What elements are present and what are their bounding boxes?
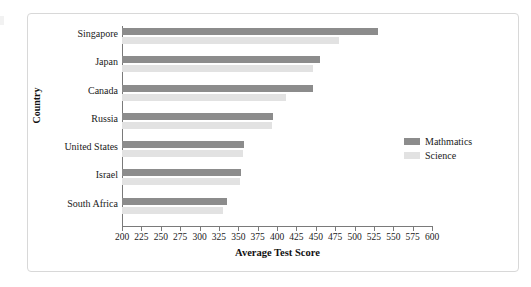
bar-group <box>122 111 432 139</box>
legend-item: Science <box>404 145 504 159</box>
x-axis-tick-label: 600 <box>412 232 452 242</box>
x-axis-tick <box>277 226 278 231</box>
bar-science <box>122 37 339 44</box>
bar-math <box>122 169 241 176</box>
bar-science <box>122 207 223 214</box>
bar-math <box>122 28 378 35</box>
x-axis-tick <box>141 226 142 231</box>
bar-math <box>122 85 313 92</box>
x-axis-tick <box>413 226 414 231</box>
bar-science <box>122 122 272 129</box>
x-axis-tick <box>180 226 181 231</box>
x-axis-tick <box>258 226 259 231</box>
y-axis-category-label: Canada <box>8 85 118 96</box>
bar-group <box>122 167 432 195</box>
x-axis-tick <box>432 226 433 231</box>
bar-science <box>122 65 313 72</box>
x-axis-title: Average Test Score <box>122 247 433 258</box>
plot-area <box>122 26 432 224</box>
y-axis-category-label: South Africa <box>8 198 118 209</box>
y-axis-category-label: Japan <box>8 56 118 67</box>
bar-group <box>122 196 432 224</box>
bar-math <box>122 198 227 205</box>
bar-group <box>122 54 432 82</box>
y-axis-category-label: United States <box>8 141 118 152</box>
bar-group <box>122 83 432 111</box>
y-axis-category-label: Russia <box>8 113 118 124</box>
x-axis-tick <box>296 226 297 231</box>
y-axis-category-labels: SingaporeJapanCanadaRussiaUnited StatesI… <box>8 26 118 224</box>
x-axis-tick <box>200 226 201 231</box>
y-axis-category-label: Singapore <box>8 28 118 39</box>
legend-swatch <box>404 138 420 145</box>
x-axis-tick <box>122 226 123 231</box>
legend-label: Science <box>425 150 456 161</box>
legend-swatch <box>404 152 420 159</box>
bar-science <box>122 94 286 101</box>
x-axis-tick <box>316 226 317 231</box>
image-edge-artifact <box>0 16 4 25</box>
chart-legend: MathmaticsScience <box>404 131 504 159</box>
x-axis-tick <box>161 226 162 231</box>
bar-science <box>122 150 243 157</box>
y-axis-category-label: Israel <box>8 169 118 180</box>
x-axis-tick <box>374 226 375 231</box>
legend-item: Mathmatics <box>404 131 504 145</box>
x-axis-tick <box>393 226 394 231</box>
x-axis-tick <box>238 226 239 231</box>
bar-math <box>122 141 244 148</box>
x-axis-tick <box>219 226 220 231</box>
bar-science <box>122 178 240 185</box>
bar-group <box>122 139 432 167</box>
x-axis-tick <box>355 226 356 231</box>
chart-figure: Country 20022525027530032535037540042545… <box>0 0 531 287</box>
x-axis-tick <box>335 226 336 231</box>
bar-math <box>122 56 320 63</box>
bar-math <box>122 113 273 120</box>
bar-group <box>122 26 432 54</box>
